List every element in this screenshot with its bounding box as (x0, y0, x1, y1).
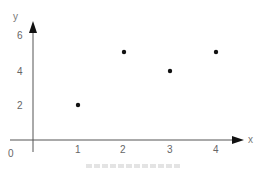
y-tick-2: 2 (17, 100, 23, 111)
x-tick-1: 1 (75, 144, 81, 155)
x-tick-3: 3 (167, 144, 173, 155)
data-point-1 (76, 103, 80, 107)
y-axis-arrow-icon (29, 21, 37, 33)
x-tick-0: 0 (8, 148, 14, 159)
data-point-3 (168, 69, 172, 73)
figure-caption-illegible (86, 164, 182, 168)
y-axis-label: y (13, 11, 18, 22)
x-axis-label: x (248, 134, 253, 145)
x-tick-2: 2 (120, 144, 126, 155)
x-axis-arrow-icon (232, 136, 244, 144)
data-point-4 (214, 50, 218, 54)
data-point-2 (122, 50, 126, 54)
x-tick-4: 4 (213, 144, 219, 155)
scatter-chart: x y 0 1 2 3 4 2 4 6 (0, 0, 257, 177)
y-tick-4: 4 (17, 66, 23, 77)
y-tick-6: 6 (17, 30, 23, 41)
